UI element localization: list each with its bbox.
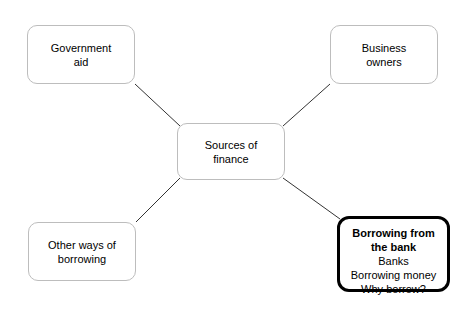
node-borrowing-from-the-bank-item-why-borrow: Why borrow? <box>340 282 447 296</box>
node-borrowing-from-the-bank[interactable]: Borrowing from the bank Banks Borrowing … <box>337 216 450 292</box>
node-borrowing-from-the-bank-title: Borrowing from the bank <box>340 226 447 254</box>
node-business-owners-label: Business owners <box>356 41 413 69</box>
node-borrowing-from-the-bank-item-borrowing-money: Borrowing money <box>340 268 447 282</box>
node-government-aid-label: Government aid <box>45 41 118 69</box>
node-other-ways-of-borrowing[interactable]: Other ways of borrowing <box>28 222 136 281</box>
connector-center-to-government-aid <box>135 84 180 126</box>
node-other-ways-of-borrowing-label: Other ways of borrowing <box>42 238 122 266</box>
node-borrowing-from-the-bank-item-banks: Banks <box>340 254 447 268</box>
connector-center-to-other-ways-of-borrowing <box>136 178 180 222</box>
node-sources-of-finance[interactable]: Sources of finance <box>177 123 285 180</box>
connector-center-to-business-owners <box>283 84 330 126</box>
node-business-owners[interactable]: Business owners <box>330 25 438 84</box>
connector-center-to-borrowing-from-the-bank <box>283 178 340 219</box>
node-borrowing-from-the-bank-content: Borrowing from the bank Banks Borrowing … <box>340 226 447 296</box>
node-sources-of-finance-label: Sources of finance <box>199 138 264 166</box>
node-government-aid[interactable]: Government aid <box>27 25 135 84</box>
mind-map-canvas: Government aid Business owners Sources o… <box>0 0 465 310</box>
